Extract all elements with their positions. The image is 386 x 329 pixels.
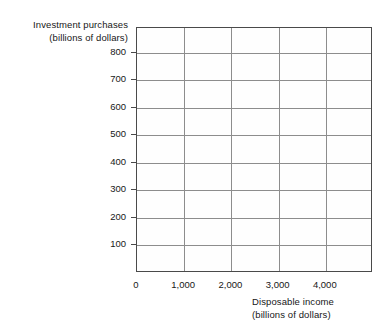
y-axis-title: Investment purchases (billions of dollar… [4,19,128,44]
gridline-horizontal [137,108,371,109]
gridline-horizontal [137,80,371,81]
plot-area [136,27,372,272]
y-tick-label: 700 [92,74,126,84]
x-tick-label: 0 [114,280,158,290]
y-axis-title-line-1: Investment purchases [4,19,128,32]
y-tick-label: 500 [92,129,126,139]
y-axis-title-line-2: (billions of dollars) [4,32,128,45]
y-tick-mark [131,79,136,80]
x-axis-title-line-1: Disposable income [252,296,382,309]
y-tick-label: 800 [92,47,126,57]
y-tick-mark [131,217,136,218]
y-tick-label: 200 [92,212,126,222]
y-tick-label: 600 [92,102,126,112]
x-axis-title: Disposable income (billions of dollars) [252,296,382,321]
x-tick-label: 4,000 [303,280,347,290]
gridline-vertical [231,28,232,271]
gridline-horizontal [137,218,371,219]
gridline-horizontal [137,190,371,191]
y-tick-label: 100 [92,239,126,249]
gridline-vertical [184,28,185,271]
y-tick-mark [131,52,136,53]
gridline-horizontal [137,163,371,164]
gridline-horizontal [137,53,371,54]
y-tick-label: 400 [92,157,126,167]
x-tick-label: 3,000 [256,280,300,290]
gridline-horizontal [137,135,371,136]
x-axis-title-line-2: (billions of dollars) [252,309,382,322]
y-tick-mark [131,107,136,108]
y-tick-label: 300 [92,184,126,194]
gridline-horizontal [137,245,371,246]
x-tick-label: 1,000 [161,280,205,290]
x-tick-label: 2,000 [208,280,252,290]
gridline-vertical [279,28,280,271]
y-tick-mark [131,189,136,190]
gridline-vertical [326,28,327,271]
y-tick-mark [131,162,136,163]
plot-gridlines [137,28,371,271]
y-tick-mark [131,244,136,245]
y-tick-mark [131,134,136,135]
